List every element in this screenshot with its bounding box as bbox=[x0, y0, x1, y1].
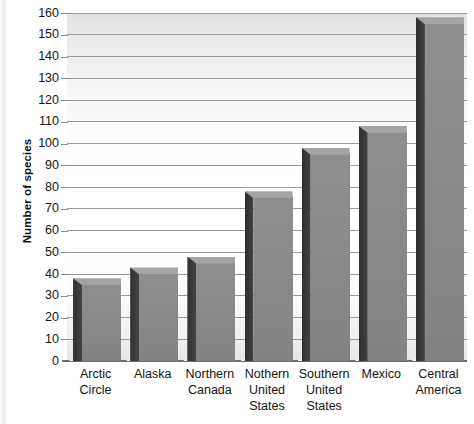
y-tick-mark-10 bbox=[61, 339, 68, 340]
y-tick-mark-120 bbox=[61, 100, 68, 101]
y-tick-mark-140 bbox=[61, 57, 68, 58]
y-tick-mark-60 bbox=[61, 231, 68, 232]
y-tick-label-70: 70 bbox=[25, 202, 59, 215]
gridline-150 bbox=[67, 34, 467, 35]
y-tick-mark-160 bbox=[61, 13, 68, 14]
gridline-90 bbox=[67, 165, 467, 166]
bar-side-face-6 bbox=[416, 17, 425, 361]
x-category-label-line: States bbox=[292, 398, 357, 414]
gridline-100 bbox=[67, 143, 467, 144]
bar-5 bbox=[368, 126, 407, 361]
y-tick-label-100: 100 bbox=[25, 137, 59, 150]
bar-2 bbox=[196, 257, 235, 361]
y-tick-label-60: 60 bbox=[25, 224, 59, 237]
bar-0 bbox=[82, 278, 121, 361]
x-category-label-4: SouthernUnitedStates bbox=[292, 366, 357, 414]
x-axis-category-labels: ArcticCircleAlaskaNorthernCanadaNothernU… bbox=[67, 366, 467, 424]
bar-front-face-5 bbox=[368, 131, 407, 361]
y-tick-label-120: 120 bbox=[25, 94, 59, 107]
gridline-160 bbox=[67, 13, 467, 14]
bar-side-face-3 bbox=[245, 191, 254, 361]
bar-6 bbox=[425, 17, 464, 361]
x-category-label-line: Central bbox=[406, 366, 471, 382]
gridline-110 bbox=[67, 121, 467, 122]
x-category-label-line: United bbox=[234, 382, 299, 398]
x-category-label-line: Mexico bbox=[349, 366, 414, 382]
bar-side-face-5 bbox=[359, 126, 368, 361]
y-tick-mark-80 bbox=[61, 187, 68, 188]
bar-front-face-6 bbox=[425, 22, 464, 361]
y-tick-mark-20 bbox=[61, 318, 68, 319]
bar-side-face-1 bbox=[130, 267, 139, 361]
y-tick-mark-130 bbox=[61, 78, 68, 79]
gridline-120 bbox=[67, 100, 467, 101]
y-tick-label-20: 20 bbox=[25, 311, 59, 324]
scan-edge-artifact bbox=[0, 0, 7, 424]
bar-chart-figure: Number of species 0102030405060708090100… bbox=[0, 0, 474, 424]
gridline-130 bbox=[67, 78, 467, 79]
x-category-label-line: America bbox=[406, 382, 471, 398]
bar-front-face-1 bbox=[139, 272, 178, 361]
y-tick-label-130: 130 bbox=[25, 72, 59, 85]
bar-1 bbox=[139, 267, 178, 361]
gridline-140 bbox=[67, 56, 467, 57]
x-category-label-6: CentralAmerica bbox=[406, 366, 471, 398]
x-category-label-line: Nothern bbox=[234, 366, 299, 382]
y-tick-mark-40 bbox=[61, 274, 68, 275]
bar-front-face-0 bbox=[82, 283, 121, 361]
plot-area bbox=[67, 13, 467, 361]
x-category-label-line: States bbox=[234, 398, 299, 414]
y-tick-label-0: 0 bbox=[25, 355, 59, 368]
bar-side-face-2 bbox=[187, 257, 196, 361]
y-tick-mark-50 bbox=[61, 252, 68, 253]
x-category-label-2: NorthernCanada bbox=[177, 366, 242, 398]
bar-front-face-4 bbox=[311, 153, 350, 361]
y-tick-label-140: 140 bbox=[25, 50, 59, 63]
y-tick-label-90: 90 bbox=[25, 159, 59, 172]
bar-front-face-2 bbox=[196, 262, 235, 361]
y-tick-label-150: 150 bbox=[25, 28, 59, 41]
x-category-label-line: Northern bbox=[177, 366, 242, 382]
y-tick-label-110: 110 bbox=[25, 115, 59, 128]
y-tick-label-30: 30 bbox=[25, 289, 59, 302]
bar-side-face-0 bbox=[73, 278, 82, 361]
y-tick-label-50: 50 bbox=[25, 246, 59, 259]
y-tick-mark-30 bbox=[61, 296, 68, 297]
bar-front-face-3 bbox=[254, 196, 293, 361]
y-tick-label-40: 40 bbox=[25, 268, 59, 281]
x-category-label-5: Mexico bbox=[349, 366, 414, 382]
x-category-label-3: NothernUnitedStates bbox=[234, 366, 299, 414]
y-tick-mark-70 bbox=[61, 209, 68, 210]
x-category-label-0: ArcticCircle bbox=[63, 366, 128, 398]
x-category-label-line: United bbox=[292, 382, 357, 398]
x-category-label-line: Canada bbox=[177, 382, 242, 398]
y-tick-mark-110 bbox=[61, 122, 68, 123]
x-category-label-line: Circle bbox=[63, 382, 128, 398]
y-tick-mark-90 bbox=[61, 165, 68, 166]
bar-side-face-4 bbox=[302, 148, 311, 361]
bar-4 bbox=[311, 148, 350, 361]
bar-3 bbox=[254, 191, 293, 361]
y-tick-mark-150 bbox=[61, 35, 68, 36]
x-category-label-line: Alaska bbox=[120, 366, 185, 382]
y-tick-label-160: 160 bbox=[25, 7, 59, 20]
x-category-label-line: Arctic bbox=[63, 366, 128, 382]
y-tick-mark-100 bbox=[61, 144, 68, 145]
x-category-label-line: Southern bbox=[292, 366, 357, 382]
gridline-80 bbox=[67, 187, 467, 188]
y-tick-label-10: 10 bbox=[25, 333, 59, 346]
y-tick-label-80: 80 bbox=[25, 181, 59, 194]
x-category-label-1: Alaska bbox=[120, 366, 185, 382]
